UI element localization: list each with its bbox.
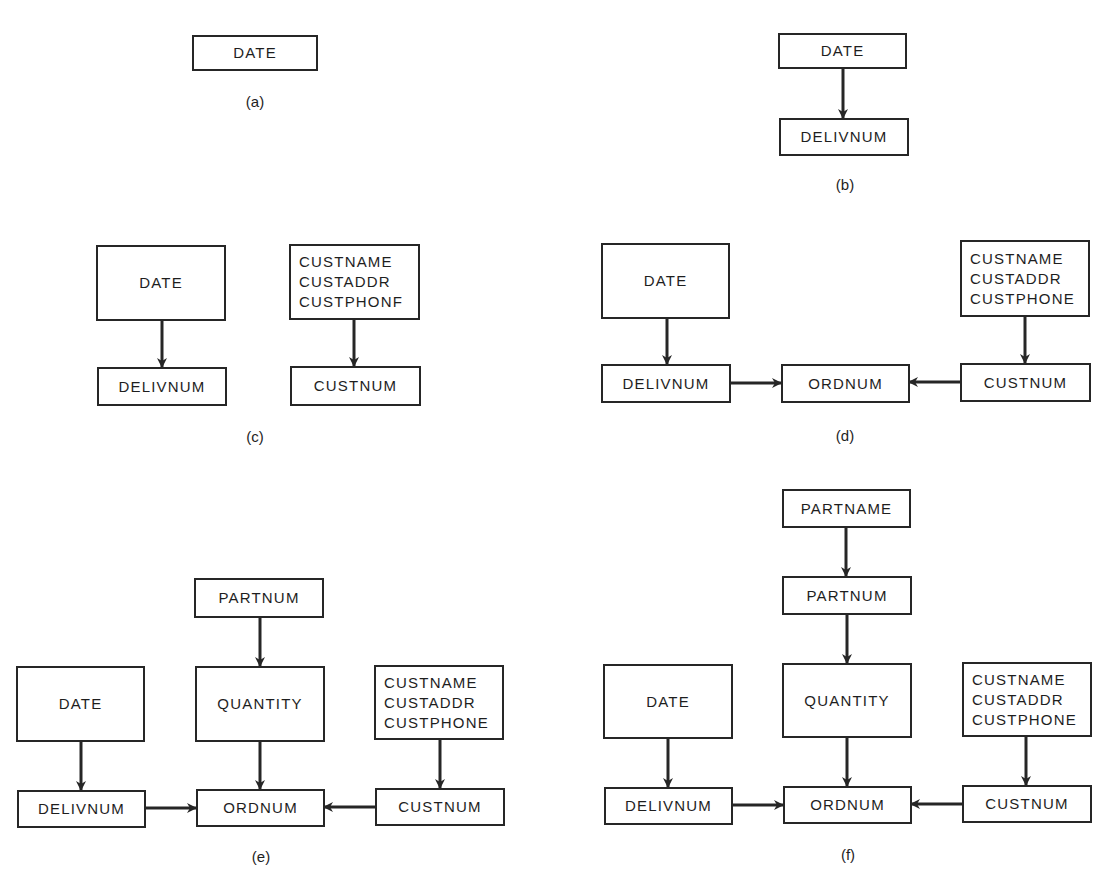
d-ordnum-box: ORDNUM <box>781 364 910 403</box>
c-custphone-label: CUSTPHONF <box>299 292 403 312</box>
f-delivnum-box: DELIVNUM <box>604 787 733 825</box>
d-date-box: DATE <box>601 243 730 319</box>
f-ordnum-label: ORDNUM <box>810 795 885 815</box>
f-quantity-box: QUANTITY <box>782 663 912 738</box>
f-cust-box: CUSTNAME CUSTADDR CUSTPHONE <box>962 662 1092 737</box>
e-custnum-label: CUSTNUM <box>398 797 481 817</box>
e-custphone-label: CUSTPHONE <box>384 713 489 733</box>
e-delivnum-box: DELIVNUM <box>17 790 146 828</box>
e-ordnum-label: ORDNUM <box>223 798 298 818</box>
e-cust-box: CUSTNAME CUSTADDR CUSTPHONE <box>374 665 504 740</box>
f-custnum-box: CUSTNUM <box>962 785 1092 823</box>
caption-d: (d) <box>836 427 854 444</box>
b-date-box: DATE <box>778 33 907 69</box>
f-partnum-box: PARTNUM <box>782 576 912 615</box>
caption-e: (e) <box>252 848 270 865</box>
f-partname-box: PARTNAME <box>782 489 911 528</box>
f-delivnum-label: DELIVNUM <box>625 796 712 816</box>
e-quantity-box: QUANTITY <box>195 666 325 742</box>
d-custnum-label: CUSTNUM <box>984 373 1067 393</box>
a-date-label: DATE <box>233 43 277 63</box>
e-delivnum-label: DELIVNUM <box>38 799 125 819</box>
a-date-box: DATE <box>192 35 318 71</box>
b-delivnum-label: DELIVNUM <box>800 127 887 147</box>
caption-b: (b) <box>836 176 854 193</box>
c-custaddr-label: CUSTADDR <box>299 272 391 292</box>
c-date-label: DATE <box>139 273 183 293</box>
f-custphone-label: CUSTPHONE <box>972 710 1077 730</box>
arrows-layer <box>0 0 1118 888</box>
d-date-label: DATE <box>644 271 688 291</box>
e-partnum-box: PARTNUM <box>194 578 324 618</box>
d-cust-box: CUSTNAME CUSTADDR CUSTPHONE <box>960 240 1090 317</box>
d-custaddr-label: CUSTADDR <box>970 269 1062 289</box>
caption-a: (a) <box>246 93 264 110</box>
f-quantity-label: QUANTITY <box>804 691 889 711</box>
d-delivnum-box: DELIVNUM <box>601 364 731 403</box>
e-custnum-box: CUSTNUM <box>375 788 505 826</box>
f-custname-label: CUSTNAME <box>972 670 1066 690</box>
f-custnum-label: CUSTNUM <box>985 794 1068 814</box>
f-custaddr-label: CUSTADDR <box>972 690 1064 710</box>
c-custname-label: CUSTNAME <box>299 252 393 272</box>
e-ordnum-box: ORDNUM <box>196 789 325 827</box>
f-partname-label: PARTNAME <box>801 499 893 519</box>
e-quantity-label: QUANTITY <box>217 694 302 714</box>
e-custname-label: CUSTNAME <box>384 673 478 693</box>
d-ordnum-label: ORDNUM <box>808 374 883 394</box>
d-custnum-box: CUSTNUM <box>960 363 1091 402</box>
f-date-label: DATE <box>646 692 690 712</box>
f-date-box: DATE <box>603 664 733 739</box>
c-date-box: DATE <box>96 245 226 321</box>
f-partnum-label: PARTNUM <box>806 586 887 606</box>
c-delivnum-label: DELIVNUM <box>118 377 205 397</box>
b-date-label: DATE <box>821 41 865 61</box>
d-custphone-label: CUSTPHONE <box>970 289 1075 309</box>
c-delivnum-box: DELIVNUM <box>97 367 227 406</box>
f-ordnum-box: ORDNUM <box>783 786 912 824</box>
caption-f: (f) <box>841 846 855 863</box>
d-delivnum-label: DELIVNUM <box>622 374 709 394</box>
c-custnum-label: CUSTNUM <box>314 376 397 396</box>
e-date-label: DATE <box>59 694 103 714</box>
b-delivnum-box: DELIVNUM <box>779 118 909 156</box>
e-partnum-label: PARTNUM <box>218 588 299 608</box>
d-custname-label: CUSTNAME <box>970 249 1064 269</box>
e-custaddr-label: CUSTADDR <box>384 693 476 713</box>
caption-c: (c) <box>246 428 264 445</box>
e-date-box: DATE <box>16 666 145 742</box>
c-cust-box: CUSTNAME CUSTADDR CUSTPHONF <box>289 244 420 320</box>
c-custnum-box: CUSTNUM <box>290 366 421 406</box>
